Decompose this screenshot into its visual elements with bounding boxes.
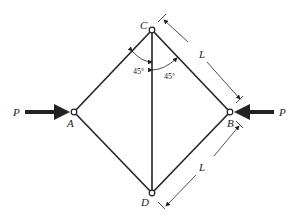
- dim-tick-d: [158, 202, 165, 209]
- label-dim-upper: L: [198, 48, 205, 60]
- angle-arc-left: [132, 51, 152, 62]
- dim-tick-b-upper: [236, 96, 243, 103]
- dim-line-lower-b: [166, 175, 196, 206]
- dim-line-upper-a: [164, 20, 188, 42]
- label-b: B: [227, 117, 234, 129]
- member-cb: [152, 30, 230, 112]
- label-a: A: [66, 117, 74, 129]
- truss-diagram: C A B D P P 45° 45° L L: [0, 0, 299, 221]
- joint-a: [71, 109, 77, 115]
- joint-d: [149, 190, 155, 196]
- label-angle-left: 45°: [133, 67, 144, 76]
- joint-b: [227, 109, 233, 115]
- members: [74, 30, 230, 193]
- label-angle-right: 45°: [164, 72, 175, 81]
- joint-c: [149, 27, 155, 33]
- label-dim-lower: L: [198, 161, 205, 173]
- member-da: [74, 112, 152, 193]
- label-d: D: [140, 196, 149, 208]
- angle-arc-right: [152, 58, 177, 70]
- member-bd: [152, 112, 230, 193]
- dim-tick-b-lower: [236, 121, 243, 128]
- label-load-left: P: [12, 106, 20, 118]
- label-load-right: P: [278, 106, 286, 118]
- label-c: C: [140, 19, 148, 31]
- dim-line-lower-a: [214, 126, 239, 156]
